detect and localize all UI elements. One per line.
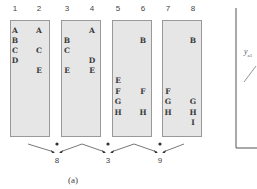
node-dot	[55, 142, 58, 145]
node-dot	[106, 142, 109, 145]
y-axis-label: ya1	[244, 47, 252, 58]
node-dot	[158, 142, 161, 145]
result-label-1: 8	[51, 156, 63, 165]
side-plot-axes	[236, 8, 257, 148]
result-label-3: 9	[154, 156, 166, 165]
figure-caption: (a)	[68, 175, 78, 185]
result-label-2: 3	[102, 156, 114, 165]
y-axis-label-sub: a1	[248, 53, 253, 58]
arrows-and-axes	[0, 0, 257, 189]
